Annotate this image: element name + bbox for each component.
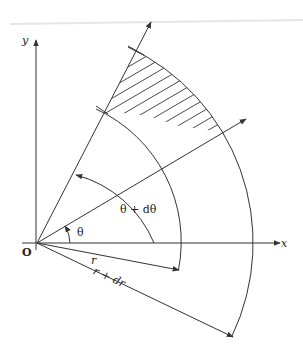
tick-outer (128, 46, 144, 55)
y-axis-label: y (21, 34, 29, 47)
polar-area-element-diagram: y x O θ θ + dθ r r + dr (0, 0, 303, 356)
angle-arc-theta (65, 226, 70, 243)
ray-theta (37, 119, 246, 243)
radius-r-plus-dr-arrow (37, 243, 233, 337)
x-axis-label: x (281, 237, 288, 250)
radius-r-arrow (37, 243, 179, 270)
r-plus-dr-label: r + dr (91, 264, 128, 290)
theta-label: θ (77, 226, 84, 239)
scan-artifact-line (10, 20, 303, 24)
theta-plus-dtheta-label: θ + dθ (120, 203, 157, 216)
origin-label: O (22, 246, 32, 259)
arc-r-plus-dr (128, 47, 253, 336)
